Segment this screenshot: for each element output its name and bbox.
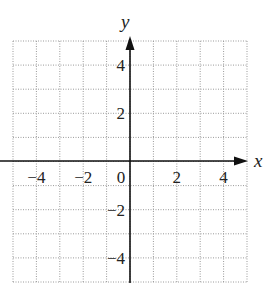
y-tick-label: 2 <box>117 104 126 123</box>
coordinate-plane: x y −4−202442−2−4 <box>0 0 280 287</box>
y-tick-label: −2 <box>107 201 125 220</box>
x-tick-label: −4 <box>27 168 46 187</box>
y-axis-label: y <box>119 11 130 32</box>
x-tick-label: 4 <box>219 168 228 187</box>
y-tick-label: −4 <box>107 249 126 268</box>
x-axis-arrow-icon <box>234 157 248 166</box>
x-tick-label: 2 <box>173 168 182 187</box>
x-axis-label: x <box>253 150 263 171</box>
y-tick-label: 4 <box>117 56 126 75</box>
y-axis-arrow-icon <box>126 36 135 50</box>
x-tick-label: 0 <box>117 168 126 187</box>
x-tick-label: −2 <box>74 168 92 187</box>
